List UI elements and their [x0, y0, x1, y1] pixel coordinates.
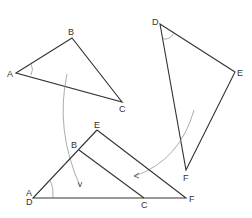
label-f-bottom: F: [189, 194, 195, 204]
label-c-top: C: [119, 104, 126, 114]
label-d-bottom: D: [26, 197, 33, 207]
arrowhead-left-icon: [78, 182, 82, 187]
similar-triangles-diagram: A B C D E F A D B E C F: [0, 0, 252, 218]
label-b-bottom: B: [71, 140, 77, 150]
label-e-top: E: [237, 68, 243, 78]
label-e-bottom: E: [94, 120, 100, 130]
superimposed-triangles: A D B E C F: [26, 120, 195, 210]
label-b-top: B: [68, 27, 74, 37]
arrow-abc-to-bottom: [63, 74, 80, 186]
label-f-top: F: [183, 173, 189, 183]
label-c-bottom: C: [141, 200, 148, 210]
angle-a-arc: [31, 64, 33, 75]
angle-ad-arc: [50, 180, 53, 198]
triangle-abc: A B C: [7, 27, 126, 114]
label-d-top: D: [152, 17, 159, 27]
label-a-top: A: [7, 69, 13, 79]
angle-d-arc: [163, 33, 174, 39]
